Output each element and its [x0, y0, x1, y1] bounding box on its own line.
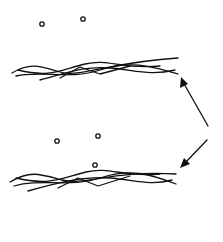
healthy-fibers: [12, 58, 178, 80]
arrowhead-up: [180, 77, 188, 88]
particle: [93, 163, 97, 167]
particle: [40, 22, 44, 26]
arrow-to-leaky: [184, 140, 207, 164]
fiber: [28, 178, 172, 191]
particle: [96, 134, 100, 138]
diagram-artwork: [0, 0, 223, 242]
particle: [55, 139, 59, 143]
particle: [81, 17, 85, 21]
arrow-to-healthy: [183, 82, 208, 126]
leaky-fibers: [10, 170, 176, 191]
